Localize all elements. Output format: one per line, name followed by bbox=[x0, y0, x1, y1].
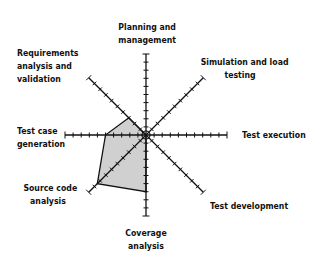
series-polygon bbox=[97, 118, 146, 192]
axis-label-testcase: Test case generation bbox=[17, 124, 65, 150]
axis-label-execution: Test execution bbox=[242, 128, 306, 141]
axis-label-coverage: Coverage analysis bbox=[121, 226, 170, 252]
axis-label-planning: Planning and management bbox=[118, 20, 175, 46]
axis-label-development: Test development bbox=[210, 199, 288, 212]
axis-label-requirements: Requirements analysis and validation bbox=[17, 46, 79, 85]
axis-label-simulation: Simulation and load testing bbox=[201, 55, 280, 81]
axis-label-source: Source code analysis bbox=[23, 181, 72, 207]
